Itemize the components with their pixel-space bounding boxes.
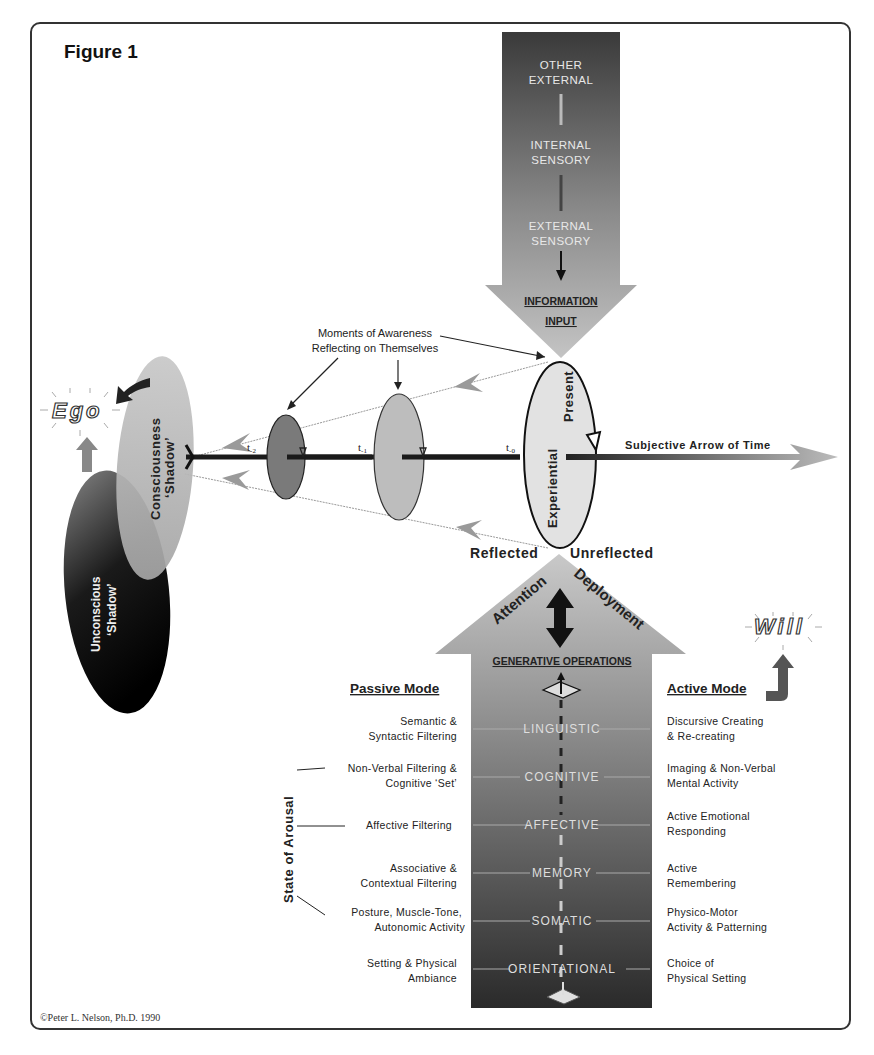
unreflected-label: Unreflected: [570, 545, 654, 561]
passive-mode: Passive Mode Semantic & Syntactic Filter…: [297, 681, 465, 984]
figure-title: Figure 1: [64, 41, 138, 62]
passive-item-6-line2: Ambiance: [408, 972, 457, 984]
active-item-3-line2: Responding: [667, 825, 726, 837]
copyright-text: ©Peter L. Nelson, Ph.D. 1990: [40, 1012, 160, 1023]
active-mode-title: Active Mode: [667, 681, 747, 696]
generative-operations-label: GENERATIVE OPERATIONS: [492, 655, 631, 667]
unconscious-label: Unconscious: [89, 576, 103, 652]
present-label: Present: [561, 371, 576, 422]
op-somatic: SOMATIC: [532, 914, 593, 928]
active-item-2-line1: Imaging & Non-Verbal: [667, 762, 776, 774]
tick-t2: t-2: [247, 441, 256, 455]
will-arrow-icon: [766, 654, 794, 701]
will-badge: Will: [745, 612, 822, 701]
timeline: t-2 t-1 t-0 Experiential Present Subject…: [186, 362, 838, 561]
input-level-1-line1: OTHER: [540, 59, 583, 71]
tick-t0: t-0: [506, 441, 515, 455]
active-item-4-line2: Remembering: [667, 877, 736, 889]
active-mode: Active Mode Discursive Creating & Re-cre…: [667, 681, 776, 984]
active-item-5-line2: Activity & Patterning: [667, 921, 767, 933]
op-affective: AFFECTIVE: [524, 818, 599, 832]
passive-mode-title: Passive Mode: [350, 681, 440, 696]
will-label: Will: [754, 614, 805, 639]
passive-item-2-line2: Cognitive ‘Set’: [385, 777, 457, 789]
unconscious-shadow-label: ‘Shadow’: [105, 583, 119, 636]
active-item-4-line1: Active: [667, 862, 697, 874]
active-item-6-line1: Choice of: [667, 957, 714, 969]
input-level-2-line2: SENSORY: [531, 154, 591, 166]
active-item-6-line2: Physical Setting: [667, 972, 747, 984]
attention-deployment-arrow: Attention Deployment GENERATIVE OPERATIO…: [435, 554, 686, 1008]
active-item-1-line1: Discursive Creating: [667, 715, 764, 727]
ego-label: Ego: [52, 398, 103, 423]
passive-item-3-line1: Affective Filtering: [366, 819, 452, 831]
consciousness-shadow-label: ‘Shadow’: [162, 437, 177, 498]
passive-item-1-line2: Syntactic Filtering: [368, 730, 457, 742]
passive-item-1-line1: Semantic &: [400, 715, 457, 727]
active-item-5-line1: Physico-Motor: [667, 906, 738, 918]
state-of-arousal-label: State of Arousal: [281, 796, 296, 903]
passive-item-6-line1: Setting & Physical: [367, 957, 457, 969]
time-arrow-label: Subjective Arrow of Time: [625, 439, 771, 451]
information-input-arrow: OTHER EXTERNAL INTERNAL SENSORY EXTERNAL…: [485, 32, 637, 358]
passive-item-5-line1: Posture, Muscle-Tone,: [351, 906, 462, 918]
input-level-2-line1: INTERNAL: [531, 139, 592, 151]
op-linguistic: LINGUISTIC: [523, 722, 600, 736]
op-memory: MEMORY: [532, 866, 592, 880]
input-label: INPUT: [545, 315, 577, 327]
input-level-1-line2: EXTERNAL: [529, 74, 594, 86]
active-item-1-line2: & Re-creating: [667, 730, 735, 742]
passive-item-4-line1: Associative &: [390, 862, 457, 874]
callout-line-2: Reflecting on Themselves: [312, 342, 439, 354]
callout-line-1: Moments of Awareness: [318, 327, 433, 339]
op-cognitive: COGNITIVE: [524, 770, 599, 784]
reflected-label: Reflected: [470, 545, 538, 561]
information-label: INFORMATION: [524, 295, 597, 307]
passive-item-4-line2: Contextual Filtering: [361, 877, 457, 889]
consciousness-label: Consciousness: [148, 417, 163, 520]
input-level-3-line2: SENSORY: [531, 235, 591, 247]
passive-item-2-line1: Non-Verbal Filtering &: [348, 762, 457, 774]
input-level-3-line1: EXTERNAL: [529, 220, 594, 232]
op-orientational: ORIENTATIONAL: [508, 962, 616, 976]
figure-canvas: Figure 1 OTHER EXTERNAL INTERNAL SENSORY…: [0, 0, 874, 1055]
experiential-label: Experiential: [545, 448, 560, 528]
up-arrow-icon: [76, 437, 98, 472]
passive-item-5-line2: Autonomic Activity: [374, 921, 465, 933]
tick-t1: t-1: [358, 441, 367, 455]
active-item-3-line1: Active Emotional: [667, 810, 750, 822]
active-item-2-line2: Mental Activity: [667, 777, 739, 789]
